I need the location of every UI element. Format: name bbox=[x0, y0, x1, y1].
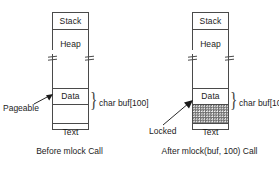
break-mark-right-icon bbox=[225, 54, 234, 63]
segment-stack: Stack bbox=[53, 13, 88, 30]
segment-buffer-locked bbox=[193, 105, 228, 124]
caption-after: After mlock(buf, 100) Call bbox=[140, 147, 279, 156]
caption-before: Before mlock Call bbox=[0, 147, 139, 156]
locked-arrow-icon bbox=[161, 99, 195, 127]
buffer-brace-after: } bbox=[230, 88, 237, 110]
diagram-canvas: Stack Heap Data Text } char buf[100] Pag… bbox=[0, 0, 279, 173]
segment-data: Data bbox=[53, 88, 88, 105]
segment-buffer-pageable bbox=[53, 105, 88, 124]
panel-after-mlock: Stack Heap Data Text } char buf[100] Loc… bbox=[140, 0, 279, 173]
memory-column-after: Stack Heap Data Text bbox=[192, 12, 229, 130]
buffer-brace-before: } bbox=[90, 88, 97, 110]
buffer-annotation-after: char buf[100] bbox=[239, 99, 279, 108]
segment-data: Data bbox=[193, 88, 228, 105]
segment-heap: Heap bbox=[53, 30, 88, 58]
segment-heap: Heap bbox=[193, 30, 228, 58]
break-mark-left-icon bbox=[48, 54, 57, 63]
callout-pageable: Pageable bbox=[3, 104, 39, 113]
segment-stack: Stack bbox=[193, 13, 228, 30]
memory-column-before: Stack Heap Data Text bbox=[52, 12, 89, 130]
segment-text: Text bbox=[53, 124, 88, 141]
break-mark-left-icon bbox=[188, 54, 197, 63]
panel-before-mlock: Stack Heap Data Text } char buf[100] Pag… bbox=[0, 0, 139, 173]
break-mark-right-icon bbox=[85, 54, 94, 63]
segment-text: Text bbox=[193, 124, 228, 141]
callout-locked: Locked bbox=[149, 127, 176, 136]
